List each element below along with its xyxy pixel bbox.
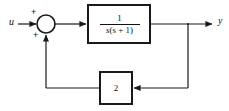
feedback-gain-value: 2: [101, 73, 131, 103]
fraction-numerator: 1: [113, 14, 126, 24]
fraction: 1 s(s + 1): [100, 14, 140, 35]
denominator-factor: (s + 1): [109, 25, 133, 35]
output-signal-label: y: [218, 16, 222, 26]
summing-junction-circle: [37, 15, 55, 33]
transfer-function-expression: 1 s(s + 1): [89, 6, 150, 42]
summing-junction-sign-bottom: +: [33, 31, 38, 40]
fraction-denominator: s(s + 1): [102, 25, 137, 35]
summing-junction-sign-top: +: [31, 8, 36, 17]
block-diagram: u y + + 1 s(s + 1) 2: [0, 0, 229, 111]
input-signal-label: u: [9, 17, 14, 27]
